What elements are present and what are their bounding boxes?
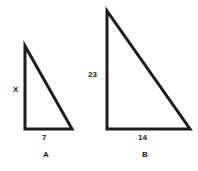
triangles-canvas: [0, 0, 198, 171]
triangle-b-name-label: B: [142, 151, 148, 159]
triangle-a-base-label: 7: [42, 134, 46, 142]
triangle-a-name-label: A: [43, 151, 49, 159]
canvas-background: [0, 0, 198, 171]
triangle-b-base-label: 14: [138, 134, 147, 142]
triangle-b-height-label: 23: [88, 71, 97, 79]
triangle-a-height-label: X: [13, 86, 18, 94]
similar-triangles-diagram: X 7 A 23 14 B: [0, 0, 198, 171]
